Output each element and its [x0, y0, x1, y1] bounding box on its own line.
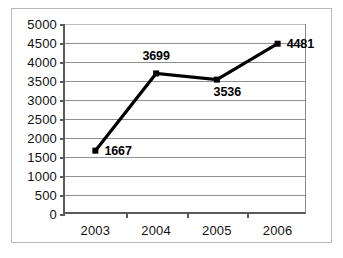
x-axis-label: 2003 [81, 223, 111, 238]
y-axis-label: 5000 [27, 17, 57, 32]
y-axis-label: 3500 [27, 74, 57, 89]
y-axis-label: 3000 [27, 93, 57, 108]
series-line [95, 44, 277, 151]
y-axis-label: 500 [35, 188, 57, 203]
x-axis-label: 2004 [141, 223, 171, 238]
x-axis-label: 2006 [263, 223, 293, 238]
plot-area: 0500100015002000250030003500400045005000… [63, 24, 306, 214]
data-point-marker [153, 70, 159, 76]
y-axis-label: 4000 [27, 55, 57, 70]
data-point-label: 3536 [214, 85, 241, 99]
y-axis-label: 2500 [27, 112, 57, 127]
data-point-marker [214, 77, 220, 83]
x-axis-label: 2005 [202, 223, 232, 238]
data-point-marker [275, 41, 281, 47]
y-axis-tick [60, 214, 65, 216]
y-axis-label: 1500 [27, 150, 57, 165]
data-point-label: 1667 [104, 144, 131, 158]
data-point-label: 3699 [142, 49, 169, 63]
chart-figure: 0500100015002000250030003500400045005000… [11, 8, 332, 243]
y-axis-label: 2000 [27, 131, 57, 146]
data-point-label: 4481 [287, 37, 314, 51]
data-series [65, 24, 308, 214]
y-axis-label: 0 [50, 207, 57, 222]
data-point-marker [92, 148, 98, 154]
y-axis-label: 1000 [27, 169, 57, 184]
y-axis-label: 4500 [27, 36, 57, 51]
